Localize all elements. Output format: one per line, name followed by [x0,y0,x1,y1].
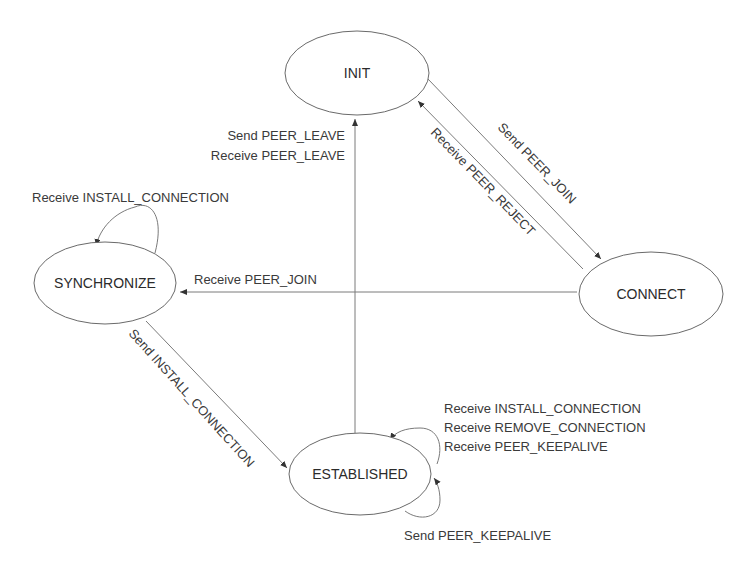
state-synchronize-label: SYNCHRONIZE [54,275,156,291]
edge-synchronize-to-established [146,321,287,468]
label-receive-peer-keepalive: Receive PEER_KEEPALIVE [444,439,608,454]
label-send-peer-leave: Send PEER_LEAVE [227,128,345,143]
state-connect-label: CONNECT [616,286,686,302]
state-established-label: ESTABLISHED [312,466,407,482]
label-receive-remove-connection: Receive REMOVE_CONNECTION [444,420,646,435]
label-receive-install-connection-est: Receive INSTALL_CONNECTION [444,401,641,416]
state-connect: CONNECT [579,252,723,336]
label-send-peer-join: Send PEER_JOIN [495,120,580,207]
label-send-peer-keepalive: Send PEER_KEEPALIVE [404,528,552,543]
label-receive-peer-join: Receive PEER_JOIN [194,272,317,287]
state-init-label: INIT [344,65,371,81]
state-established: ESTABLISHED [289,433,431,515]
label-receive-install-connection-sync: Receive INSTALL_CONNECTION [32,190,229,205]
state-init: INIT [285,31,429,115]
state-diagram: INIT SYNCHRONIZE CONNECT ESTABLISHED Sen… [0,0,738,573]
edge-init-to-connect [428,79,601,259]
state-synchronize: SYNCHRONIZE [34,242,176,324]
label-send-install-connection: Send INSTALL_CONNECTION [126,326,258,470]
label-receive-peer-leave: Receive PEER_LEAVE [211,148,345,163]
